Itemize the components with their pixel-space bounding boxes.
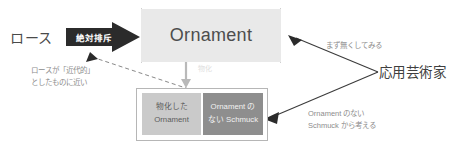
applied-artist-arrowhead-top <box>288 35 302 46</box>
label-loos: ロース <box>10 29 53 48</box>
note-try-removing: まず無くしてみる <box>326 41 382 51</box>
box-schmuck-without-ornament-line2: ない Schmuck <box>208 114 258 127</box>
diagram-canvas: Ornament 絶対排斥 ロース 応用芸術家 ロースが「近代的」 としたものに… <box>0 0 465 152</box>
box-reified-ornament-line1: 物化した <box>156 101 188 114</box>
box-reified-ornament: 物化した Ornament <box>142 93 201 135</box>
note-loos-modern: ロースが「近代的」 としたものに近い <box>31 65 94 88</box>
box-schmuck-without-ornament-line1: Ornament の <box>211 101 256 114</box>
note-reification: 物化 <box>198 64 212 73</box>
banner-absolute-rejection: 絶対排斥 <box>66 22 140 52</box>
box-ornament-label: Ornament <box>141 9 281 62</box>
box-reified-ornament-line2: Ornament <box>154 114 189 127</box>
box-ornament: Ornament <box>141 9 281 62</box>
label-applied-artist: 応用芸術家 <box>379 64 446 82</box>
banner-absolute-rejection-label: 絶対排斥 <box>71 31 117 43</box>
note-think-from-schmuck: Ornament のない Schmuck から考える <box>308 108 376 132</box>
box-schmuck-without-ornament: Ornament の ない Schmuck <box>203 93 263 135</box>
reification-arrow <box>181 62 191 88</box>
dashed-connector-arrowhead-up <box>86 52 98 62</box>
box-schmuck-without-ornament-text: Ornament の ない Schmuck <box>203 93 263 135</box>
box-reified-ornament-text: 物化した Ornament <box>142 93 201 135</box>
